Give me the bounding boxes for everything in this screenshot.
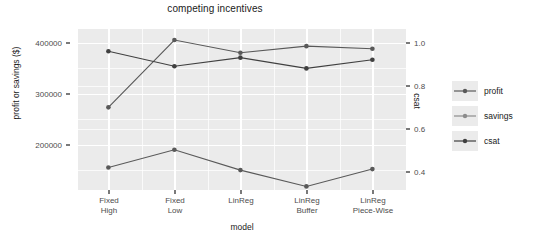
x-tick-label-linreg-piecewise: LinReg Piece-Wise	[353, 196, 393, 215]
y2-tick-mark-0_4	[406, 171, 410, 172]
point-csat-1[interactable]	[172, 64, 177, 69]
legend-label-savings: savings	[484, 111, 513, 121]
y-tick-label-300000: 300000	[35, 90, 62, 99]
x-tick-label-linreg-buffer: LinReg Buffer	[294, 196, 319, 215]
x-tick-mark-1	[174, 190, 175, 194]
legend-key-savings-icon	[452, 106, 478, 126]
y2-tick-mark-1_0	[406, 42, 410, 43]
point-profit-4[interactable]	[370, 167, 375, 172]
point-csat-3[interactable]	[304, 66, 309, 71]
x-tick-mark-3	[306, 190, 307, 194]
y-tick-label-400000: 400000	[35, 39, 62, 48]
legend-key-csat-icon	[452, 131, 478, 151]
series-layer	[78, 29, 406, 190]
x-tick-mark-0	[108, 190, 109, 194]
point-profit-3[interactable]	[304, 184, 309, 189]
y-tick-mark-200000	[66, 144, 70, 145]
legend-item-profit[interactable]: profit	[452, 78, 544, 103]
y2-tick-label-1_0: 1.0	[414, 39, 425, 48]
series-profit	[106, 147, 375, 188]
legend-label-profit: profit	[484, 86, 503, 96]
y-axis-left: 400000 300000 200000	[24, 0, 70, 240]
legend-item-csat[interactable]: csat	[452, 128, 544, 153]
legend-label-csat: csat	[484, 136, 500, 146]
point-savings-0[interactable]	[106, 105, 111, 110]
x-tick-label-linreg: LinReg	[228, 196, 253, 206]
point-profit-2[interactable]	[238, 168, 243, 173]
legend-key-profit-icon	[452, 81, 478, 101]
point-savings-1[interactable]	[172, 38, 177, 43]
point-csat-2[interactable]	[238, 55, 243, 60]
point-csat-0[interactable]	[106, 49, 111, 54]
point-csat-4[interactable]	[370, 58, 375, 63]
legend-item-savings[interactable]: savings	[452, 103, 544, 128]
x-axis-title: model	[78, 222, 406, 232]
x-tick-label-fixed-low: Fixed Low	[165, 196, 185, 215]
series-savings	[106, 38, 375, 110]
point-profit-1[interactable]	[172, 147, 177, 152]
line-savings	[108, 40, 372, 107]
chart-root: competing incentives 400000 300000 20000…	[0, 0, 548, 240]
y-tick-mark-400000	[66, 42, 70, 43]
point-profit-0[interactable]	[106, 165, 111, 170]
x-tick-mark-2	[240, 190, 241, 194]
x-tick-label-fixed-high: Fixed High	[99, 196, 119, 215]
x-tick-mark-4	[372, 190, 373, 194]
point-savings-4[interactable]	[370, 46, 375, 51]
y2-tick-mark-0_6	[406, 128, 410, 129]
y-axis-title-right: csat	[412, 71, 422, 131]
point-savings-2[interactable]	[238, 51, 243, 56]
y2-tick-mark-0_8	[406, 85, 410, 86]
y-tick-mark-300000	[66, 93, 70, 94]
legend: profit savings csat	[452, 78, 544, 153]
y-tick-label-200000: 200000	[35, 141, 62, 150]
point-savings-3[interactable]	[304, 44, 309, 49]
y2-tick-label-0_4: 0.4	[414, 168, 425, 177]
y-axis-title-left: profit or savings ($)	[11, 23, 21, 143]
plot-panel	[78, 29, 406, 190]
